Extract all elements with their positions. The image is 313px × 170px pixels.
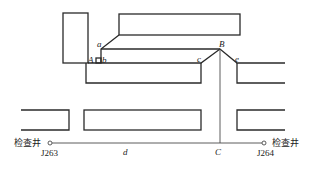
top-building — [119, 14, 240, 35]
label-A: A — [87, 55, 94, 65]
manhole-J263-icon — [48, 141, 52, 145]
label-a: a — [97, 39, 102, 49]
junction-square — [96, 58, 101, 63]
bottom-right-building — [237, 110, 285, 130]
label-c: c — [197, 54, 201, 64]
manhole-label-right: 检查井 — [272, 137, 299, 148]
manhole-J264-icon — [262, 141, 266, 145]
middle-building — [86, 63, 201, 83]
label-C: C — [215, 147, 222, 157]
label-b: b — [102, 55, 107, 65]
manhole-label-left: 检查井 — [14, 137, 41, 148]
road-edge-upper — [88, 49, 285, 63]
manhole-id-right: J264 — [257, 148, 275, 158]
label-e: e — [235, 54, 239, 64]
manhole-id-left: J263 — [41, 148, 59, 158]
bottom-left-building — [21, 110, 69, 130]
right-building-upper — [237, 63, 285, 83]
bottom-middle-building — [84, 110, 201, 130]
pipe-layout-diagram: a A b B c e C d 检查井 J263 检查井 J264 — [0, 0, 313, 170]
left-building — [63, 13, 88, 63]
label-d: d — [123, 147, 128, 157]
label-B: B — [219, 39, 225, 49]
